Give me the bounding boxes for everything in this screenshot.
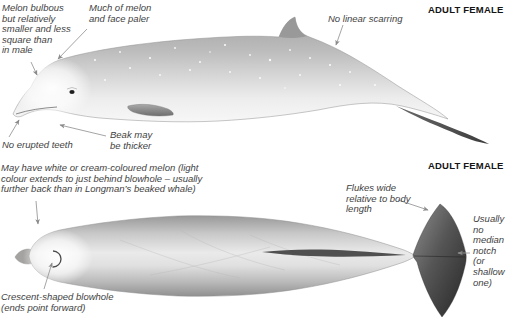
- pale-melon-overlay: [12, 56, 92, 120]
- field-guide-page: Melon bulbous but relatively smaller and…: [0, 0, 518, 326]
- leader-melon-colour: [36, 201, 38, 224]
- leader-no-erupted-teeth: [9, 120, 19, 137]
- leader-beak-thicker: [60, 125, 106, 136]
- label-crescent-shaped-blowhole: Crescent-shaped blowhole (ends point for…: [1, 292, 113, 313]
- label-no-linear-scarring: No linear scarring: [328, 14, 402, 25]
- pale-head-overlay: [23, 229, 93, 285]
- heading-adult-female-top: ADULT FEMALE: [428, 4, 504, 15]
- heading-adult-female-bottom: ADULT FEMALE: [428, 160, 504, 171]
- label-melon-bulbous: Melon bulbous but relatively smaller and…: [2, 3, 71, 56]
- label-no-erupted-teeth: No erupted teeth: [2, 140, 73, 151]
- label-flukes-wide: Flukes wide relative to body length: [346, 183, 410, 215]
- label-melon-and-face-paler: Much of melon and face paler: [89, 3, 151, 24]
- eye: [69, 90, 74, 94]
- label-cream-coloured-melon: May have white or cream-coloured melon (…: [1, 163, 202, 195]
- leader-no-linear-scarring: [336, 25, 343, 45]
- label-no-median-notch: Usually no median notch (or shallow one): [473, 214, 505, 288]
- tail-fluke-side: [396, 106, 489, 144]
- label-beak-may-be-thicker: Beak may be thicker: [110, 130, 152, 151]
- adult-female-side-view-illustration: [12, 17, 489, 144]
- tail-flukes-top-view: [413, 204, 466, 317]
- dorsal-fin: [279, 17, 307, 38]
